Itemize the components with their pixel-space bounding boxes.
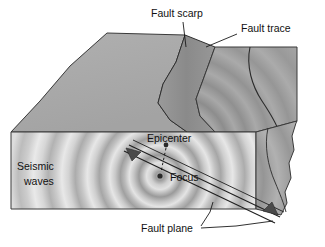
label-fault-plane: Fault plane — [141, 222, 193, 234]
leader-fault-trace — [206, 34, 237, 47]
top-surface-right-block — [196, 47, 297, 132]
fault-block-diagram: Fault scarp Fault trace Epicenter Focus … — [0, 0, 325, 247]
focus-dot — [157, 173, 162, 178]
right-side-face — [256, 121, 297, 215]
label-epicenter: Epicenter — [147, 132, 192, 144]
label-seismic-waves-line1: Seismic — [17, 160, 54, 172]
label-seismic-waves-line2: waves — [23, 175, 54, 187]
label-fault-trace: Fault trace — [241, 22, 291, 34]
label-fault-scarp: Fault scarp — [151, 7, 203, 19]
leader-fault-plane-b — [201, 221, 273, 228]
label-focus: Focus — [170, 171, 199, 183]
top-surface-left-block — [11, 33, 187, 132]
diagram-canvas: Fault scarp Fault trace Epicenter Focus … — [0, 0, 325, 247]
